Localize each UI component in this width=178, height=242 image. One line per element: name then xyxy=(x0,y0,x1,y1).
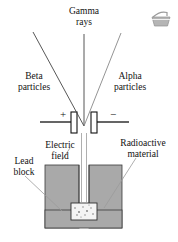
label-lead-line2: block xyxy=(6,167,42,178)
basket-watermark-icon xyxy=(149,10,173,28)
label-gamma-line1: Gamma xyxy=(53,6,115,17)
label-alpha-line2: particles xyxy=(104,82,156,93)
label-efield-line2: field xyxy=(37,151,83,162)
label-beta-line1: Beta xyxy=(10,71,58,82)
label-alpha-line1: Alpha xyxy=(104,71,156,82)
label-gamma-line2: rays xyxy=(53,17,115,28)
radioactive-sample xyxy=(71,203,97,220)
label-efield-line1: Electric xyxy=(37,140,83,151)
positive-plate xyxy=(71,112,77,133)
label-lead-line1: Lead xyxy=(6,156,42,167)
label-lead-block: Lead block xyxy=(6,156,42,177)
figure-canvas: Gamma rays Beta particles Alpha particle… xyxy=(0,0,178,242)
label-radio-line1: Radioactive xyxy=(112,138,174,149)
positive-plate-sign: + xyxy=(60,108,66,120)
label-gamma-rays: Gamma rays xyxy=(53,6,115,27)
label-radioactive-material: Radioactive material xyxy=(112,138,174,159)
label-radio-line2: material xyxy=(112,149,174,160)
label-beta-line2: particles xyxy=(10,82,58,93)
label-alpha-particles: Alpha particles xyxy=(104,71,156,92)
label-beta-particles: Beta particles xyxy=(10,71,58,92)
radioactivity-diagram xyxy=(0,0,178,242)
radioactive-sample-group xyxy=(71,203,97,220)
negative-plate-sign: − xyxy=(110,108,116,120)
negative-plate xyxy=(91,112,97,133)
label-electric-field: Electric field xyxy=(37,140,83,161)
